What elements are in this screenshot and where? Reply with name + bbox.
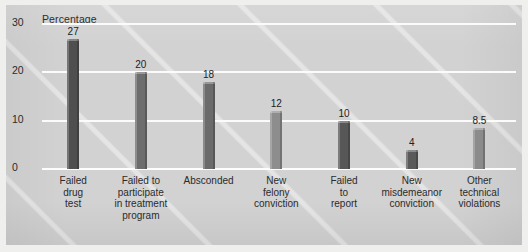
x-category-label-line: technical xyxy=(431,187,522,199)
bar[interactable] xyxy=(406,150,418,169)
bar-value-label: 8.5 xyxy=(453,115,505,126)
y-tick-label-10: 10 xyxy=(12,113,38,125)
x-category-label-line: violations xyxy=(431,198,522,210)
bar-value-label: 27 xyxy=(47,26,99,37)
bar[interactable] xyxy=(338,121,350,169)
bar-shadow-edge xyxy=(416,150,418,169)
x-category-label-line: program xyxy=(93,210,189,222)
bar-shadow-edge xyxy=(145,72,147,169)
bar-highlight-edge xyxy=(135,72,137,169)
bar-highlight-edge xyxy=(338,121,340,169)
bar-value-label: 20 xyxy=(115,59,167,70)
bar-shadow-edge xyxy=(348,121,350,169)
y-tick-label-30: 30 xyxy=(12,16,38,28)
bar[interactable] xyxy=(203,82,215,169)
bar-highlight-edge xyxy=(406,150,408,169)
bar-shadow-edge xyxy=(280,111,282,169)
bar-shadow-edge xyxy=(213,82,215,169)
x-category-label-line: Other xyxy=(431,175,522,187)
bar[interactable] xyxy=(473,128,485,169)
bar-value-label: 12 xyxy=(250,98,302,109)
bar-highlight-edge xyxy=(67,39,69,170)
x-category-label-line: participate xyxy=(93,187,189,199)
x-category-label: Othertechnicalviolations xyxy=(431,175,522,210)
bar-value-label: 18 xyxy=(183,69,235,80)
bar-value-label: 4 xyxy=(386,137,438,148)
bar-shadow-edge xyxy=(483,128,485,169)
y-tick-label-0: 0 xyxy=(12,161,38,173)
chart-figure: Percentage 0102030 272018121048.5 Failed… xyxy=(0,0,528,252)
bar-highlight-edge xyxy=(270,111,272,169)
y-tick-label-20: 20 xyxy=(12,64,38,76)
x-category-label-line: in treatment xyxy=(93,198,189,210)
bar-highlight-edge xyxy=(203,82,205,169)
plot-area: 0102030 272018121048.5 xyxy=(42,24,516,169)
bar-shadow-edge xyxy=(77,39,79,170)
bar[interactable] xyxy=(67,39,79,170)
bar[interactable] xyxy=(135,72,147,169)
bar-series: 272018121048.5 xyxy=(42,24,516,169)
x-axis-category-labels: FaileddrugtestFailed toparticipatein tre… xyxy=(42,172,516,238)
chart-plate: Percentage 0102030 272018121048.5 Failed… xyxy=(6,5,522,245)
bar[interactable] xyxy=(270,111,282,169)
bar-highlight-edge xyxy=(473,128,475,169)
bar-value-label: 10 xyxy=(318,108,370,119)
